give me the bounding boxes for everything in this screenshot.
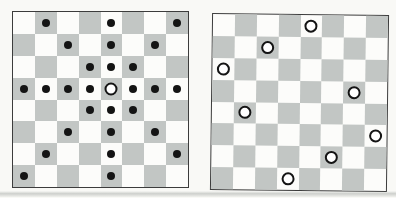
board-square — [79, 78, 101, 100]
board-square — [300, 81, 322, 103]
board-square — [211, 145, 233, 167]
board-square — [299, 103, 321, 125]
board-square — [213, 36, 235, 58]
board-square — [101, 12, 123, 34]
board-square — [122, 165, 144, 187]
board-square — [166, 143, 188, 165]
board-square — [299, 124, 321, 146]
board-square — [57, 78, 79, 100]
move-dot — [42, 19, 50, 27]
board-square — [234, 80, 256, 102]
board-square — [299, 146, 321, 168]
queen-circle — [348, 86, 361, 99]
board-square — [166, 78, 188, 100]
board-square — [101, 143, 123, 165]
board-square — [256, 58, 278, 80]
board-square — [57, 12, 79, 34]
board-square — [122, 78, 144, 100]
move-dot — [107, 150, 115, 158]
move-dot — [173, 150, 181, 158]
move-dot — [42, 85, 50, 93]
board-square — [122, 34, 144, 56]
board-square — [365, 81, 387, 103]
board-square — [35, 12, 57, 34]
board-square — [322, 37, 344, 59]
board-square — [366, 38, 388, 60]
board-square — [144, 78, 166, 100]
board-square — [35, 121, 57, 143]
board-square — [342, 169, 364, 191]
board-square — [278, 37, 300, 59]
board-square — [57, 56, 79, 78]
board-square — [344, 16, 366, 38]
board-square — [321, 81, 343, 103]
board-square — [35, 100, 57, 122]
board-square — [212, 80, 234, 102]
move-dot — [107, 41, 115, 49]
move-dot — [64, 128, 72, 136]
board-square — [364, 169, 386, 191]
board-square — [342, 147, 364, 169]
board-square — [277, 146, 299, 168]
board-square — [234, 102, 256, 124]
queen-circle — [305, 19, 318, 32]
board-square — [35, 34, 57, 56]
board-square — [13, 56, 35, 78]
board-square — [166, 34, 188, 56]
board-square — [255, 146, 277, 168]
board-square — [343, 103, 365, 125]
board-square — [212, 101, 234, 123]
board-square — [79, 56, 101, 78]
board-square — [235, 14, 257, 36]
board-square — [101, 56, 123, 78]
board-square — [298, 168, 320, 190]
board-square — [122, 100, 144, 122]
board-square — [277, 168, 299, 190]
board-square — [122, 56, 144, 78]
board-square — [13, 165, 35, 187]
move-dot — [107, 128, 115, 136]
queen-circle — [261, 41, 274, 54]
board-square — [365, 125, 387, 147]
board-square — [278, 80, 300, 102]
board-square — [144, 100, 166, 122]
move-dot — [64, 85, 72, 93]
board-square — [101, 78, 123, 100]
board-square — [365, 60, 387, 82]
board-square — [13, 100, 35, 122]
move-dot — [129, 85, 137, 93]
board-square — [166, 165, 188, 187]
board-square — [278, 58, 300, 80]
board-square — [277, 102, 299, 124]
board-square — [79, 100, 101, 122]
board-square — [79, 143, 101, 165]
board-square — [321, 125, 343, 147]
move-dot — [42, 150, 50, 158]
board-square — [212, 58, 234, 80]
board-square — [255, 102, 277, 124]
move-dot — [20, 172, 28, 180]
board-square — [122, 143, 144, 165]
board-square — [344, 37, 366, 59]
board-square — [366, 16, 388, 38]
board-square — [278, 15, 300, 37]
board-square — [13, 143, 35, 165]
queen-circle — [238, 106, 251, 119]
move-dot — [107, 172, 115, 180]
move-dot — [107, 106, 115, 114]
board-square — [79, 34, 101, 56]
board-square — [233, 145, 255, 167]
board-square — [144, 165, 166, 187]
queen-circle — [281, 172, 294, 185]
board-square — [213, 14, 235, 36]
board-square — [234, 36, 256, 58]
board-square — [122, 121, 144, 143]
board-square — [13, 34, 35, 56]
move-dot — [107, 19, 115, 27]
queen-circle — [369, 130, 382, 143]
board-square — [233, 167, 255, 189]
board-square — [322, 15, 344, 37]
board-square — [13, 12, 35, 34]
board-square — [35, 143, 57, 165]
board-square — [211, 123, 233, 145]
